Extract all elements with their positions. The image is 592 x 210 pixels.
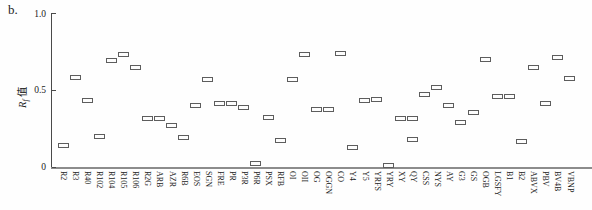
- y-tick-label: 1.0: [24, 9, 46, 19]
- x-tick-label: VBNP: [566, 171, 574, 192]
- x-tick-label: PBV: [541, 171, 549, 187]
- data-marker: [323, 107, 334, 112]
- data-marker: [130, 65, 141, 70]
- data-marker: [311, 107, 322, 112]
- data-marker: [202, 77, 213, 82]
- data-marker: [166, 123, 177, 128]
- x-tick-label: P6R: [252, 171, 260, 185]
- data-marker: [335, 51, 346, 56]
- y-axis-tick: [52, 90, 56, 91]
- x-tick-label: B2: [517, 171, 525, 180]
- x-tick-label: R105: [119, 171, 127, 188]
- x-tick-label: R104: [107, 171, 115, 188]
- data-marker: [154, 116, 165, 121]
- data-marker: [504, 94, 515, 99]
- data-marker: [564, 76, 575, 81]
- data-marker: [480, 57, 491, 62]
- x-tick-label: CO: [336, 171, 344, 182]
- data-marker: [431, 85, 442, 90]
- data-marker: [407, 137, 418, 142]
- x-tick-label: R6B: [180, 171, 188, 186]
- panel-label: b.: [8, 2, 18, 18]
- x-tick-label: BV4B: [553, 171, 561, 191]
- x-tick-label: Y4: [348, 171, 356, 181]
- x-tick-label: OII: [300, 171, 308, 182]
- x-tick-label: NYS: [433, 171, 441, 187]
- x-tick-label: OG: [312, 171, 320, 183]
- data-marker: [82, 98, 93, 103]
- x-tick-label: AZR: [168, 171, 176, 187]
- x-tick-label: OGGN: [324, 171, 332, 194]
- data-marker: [528, 65, 539, 70]
- data-marker: [299, 52, 310, 57]
- x-tick-label: P3R: [240, 171, 248, 185]
- data-marker: [383, 163, 394, 168]
- y-axis-title-symbol: R: [17, 102, 28, 108]
- x-tick-label: XY: [397, 171, 405, 183]
- data-marker: [190, 103, 201, 108]
- x-tick-label: FRE: [216, 171, 224, 186]
- x-tick-label: R102: [95, 171, 103, 188]
- data-marker: [250, 161, 261, 166]
- y-axis-tick: [52, 167, 56, 168]
- data-marker: [263, 115, 274, 120]
- y-tick-label: 0.5: [24, 85, 46, 95]
- data-marker: [142, 116, 153, 121]
- x-tick-label: R106: [131, 171, 139, 188]
- x-tick-label: R3: [71, 171, 79, 180]
- x-tick-label: OGB: [481, 171, 489, 188]
- data-marker: [58, 143, 69, 148]
- x-tick-label: ABVX: [529, 171, 537, 194]
- x-tick-label: LGSFY: [493, 171, 501, 196]
- data-marker: [359, 98, 370, 103]
- data-marker: [455, 120, 466, 125]
- data-marker: [226, 101, 237, 106]
- x-tick-label: GS: [469, 171, 477, 181]
- data-marker: [419, 92, 430, 97]
- data-marker: [238, 105, 249, 110]
- data-marker: [492, 94, 503, 99]
- x-tick-label: Y5: [361, 171, 369, 181]
- x-tick-label: YRY: [385, 171, 393, 187]
- data-marker: [552, 55, 563, 60]
- y-axis-tick: [52, 13, 56, 14]
- x-tick-label: R2G: [143, 171, 151, 186]
- y-axis-title-subscript: f: [21, 99, 30, 101]
- data-marker: [407, 116, 418, 121]
- data-marker: [178, 135, 189, 140]
- x-tick-label: AY: [445, 171, 453, 182]
- data-marker: [516, 139, 527, 144]
- x-tick-label: G3: [457, 171, 465, 181]
- x-tick-label: ARB: [155, 171, 163, 187]
- y-tick-label: 0: [24, 162, 46, 172]
- x-tick-label: EOS: [192, 171, 200, 186]
- data-marker: [287, 77, 298, 82]
- x-tick-label: R40: [83, 171, 91, 184]
- rf-value-chart: b. Rf 值 1.00.50R2R3R40R102R104R105R106R2…: [0, 0, 592, 210]
- data-marker: [118, 52, 129, 57]
- x-tick-label: YRFS: [373, 171, 381, 191]
- x-tick-label: PR: [228, 171, 236, 181]
- data-marker: [106, 58, 117, 63]
- data-marker: [468, 110, 479, 115]
- data-marker: [214, 101, 225, 106]
- x-tick-label: OI: [288, 171, 296, 179]
- x-tick-label: R2: [59, 171, 67, 180]
- data-marker: [94, 134, 105, 139]
- data-marker: [443, 103, 454, 108]
- x-tick-label: CSS: [421, 171, 429, 185]
- data-marker: [371, 97, 382, 102]
- data-marker: [347, 145, 358, 150]
- data-marker: [70, 75, 81, 80]
- x-tick-label: SGN: [204, 171, 212, 187]
- data-marker: [275, 138, 286, 143]
- x-tick-label: PSX: [264, 171, 272, 186]
- x-tick-label: B1: [505, 171, 513, 180]
- x-tick-label: RFB: [276, 171, 284, 186]
- x-axis-line: [51, 167, 592, 169]
- data-marker: [395, 116, 406, 121]
- x-tick-label: QY: [409, 171, 417, 183]
- data-marker: [540, 101, 551, 106]
